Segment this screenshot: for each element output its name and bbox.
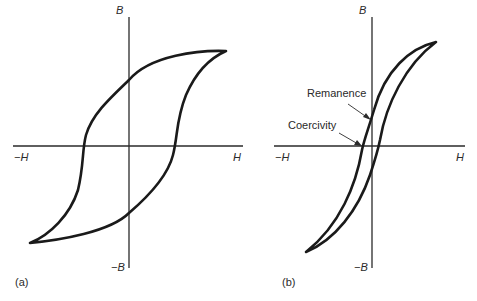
panel-b: B −B −H H (b) Remanence Coercivity	[274, 4, 465, 288]
coercivity-label: Coercivity	[288, 119, 337, 131]
caption-a: (a)	[15, 276, 28, 288]
neg-b-label-a: −B	[111, 261, 125, 273]
hysteresis-diagram: B −B −H H (a) B −B −H H (b) Remanence Co…	[0, 0, 477, 301]
remanence-arrowhead-icon	[363, 113, 371, 120]
coercivity-arrow	[339, 133, 358, 144]
neg-b-label-b: −B	[354, 261, 368, 273]
h-label-a: H	[233, 151, 241, 163]
hysteresis-loop-a	[30, 51, 226, 243]
b-label-b: B	[359, 4, 366, 16]
neg-h-label-b: −H	[275, 151, 289, 163]
panel-a: B −B −H H (a)	[13, 4, 243, 288]
neg-h-label-a: −H	[14, 151, 28, 163]
caption-b: (b)	[282, 276, 295, 288]
b-label-a: B	[116, 4, 123, 16]
remanence-label: Remanence	[307, 87, 366, 99]
coercivity-arrowhead-icon	[354, 140, 362, 146]
hysteresis-loop-b	[306, 42, 436, 252]
h-label-b: H	[456, 151, 464, 163]
